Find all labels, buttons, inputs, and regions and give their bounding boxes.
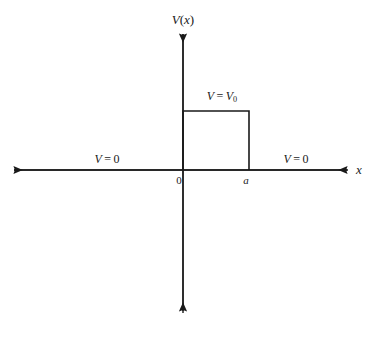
barrier-height-label: V = V0 <box>207 90 237 102</box>
vertical-axis-label: V(x) <box>172 13 194 26</box>
barrier-outline <box>183 111 249 170</box>
left-region-potential-label: V = 0 <box>95 153 120 165</box>
figure-canvas <box>0 0 371 337</box>
potential-barrier-figure: V(x) x 0 a V = 0 V = 0 V = V0 <box>0 0 371 337</box>
potential-barrier-curve <box>183 111 249 170</box>
barrier-edge-tick-label: a <box>243 175 249 186</box>
horizontal-axis-label: x <box>356 163 362 176</box>
origin-tick-label: 0 <box>176 175 182 186</box>
right-region-potential-label: V = 0 <box>284 153 309 165</box>
